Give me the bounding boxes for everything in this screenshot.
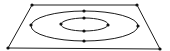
outer-right-point (136, 24, 139, 27)
top-left-point (30, 3, 33, 6)
outer-left-point (29, 23, 32, 26)
bottom-left-point (6, 46, 9, 49)
outer-ellipse (31, 11, 138, 41)
inner-left-point (59, 22, 62, 25)
diagram-canvas (0, 0, 170, 51)
inner-bottom-point (82, 29, 85, 32)
inner-top-point (82, 16, 85, 19)
bottom-right-point (158, 47, 161, 50)
inner-ellipse (61, 18, 108, 31)
top-right-point (135, 3, 138, 6)
outer-top-point (82, 9, 85, 12)
outer-bottom-point (82, 39, 85, 42)
inner-right-point (106, 23, 109, 26)
